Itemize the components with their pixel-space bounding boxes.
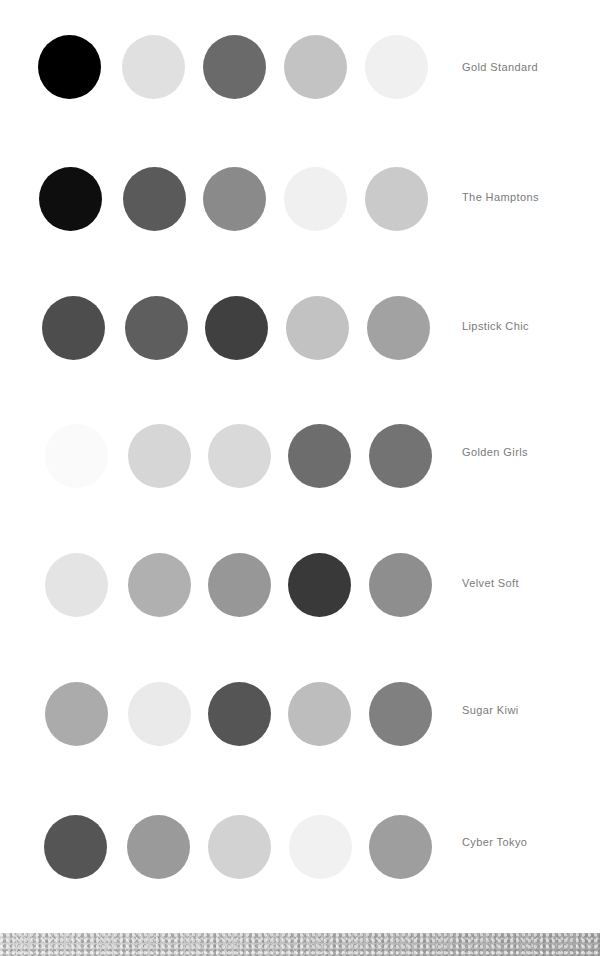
glitter-texture-band <box>0 933 600 956</box>
color-swatch-3 <box>203 35 266 99</box>
color-swatch-1 <box>45 424 108 488</box>
palette-name: Gold Standard <box>462 61 538 73</box>
color-swatch-5 <box>365 35 428 99</box>
color-swatch-1 <box>39 167 102 231</box>
color-swatch-2 <box>128 553 191 617</box>
color-swatch-4 <box>284 167 347 231</box>
color-swatch-5 <box>369 553 432 617</box>
color-swatch-2 <box>122 35 185 99</box>
color-swatch-4 <box>288 553 351 617</box>
color-swatch-5 <box>369 815 432 879</box>
color-swatch-3 <box>208 682 271 746</box>
palette-name: Sugar Kiwi <box>462 704 519 716</box>
color-swatch-1 <box>42 296 105 360</box>
color-swatch-5 <box>369 682 432 746</box>
palette-row-golden-girls: Golden Girls <box>0 424 600 494</box>
color-swatch-2 <box>128 682 191 746</box>
color-swatch-3 <box>208 424 271 488</box>
color-swatch-4 <box>288 424 351 488</box>
color-swatch-5 <box>369 424 432 488</box>
palette-row-cyber-tokyo: Cyber Tokyo <box>0 815 600 885</box>
color-swatch-5 <box>367 296 430 360</box>
color-swatch-5 <box>365 167 428 231</box>
palette-name: Velvet Soft <box>462 577 519 589</box>
palette-row-sugar-kiwi: Sugar Kiwi <box>0 682 600 752</box>
color-swatch-2 <box>127 815 190 879</box>
color-swatch-3 <box>208 815 271 879</box>
palette-name: Golden Girls <box>462 446 528 458</box>
color-swatch-2 <box>123 167 186 231</box>
palette-row-lipstick-chic: Lipstick Chic <box>0 296 600 366</box>
color-swatch-1 <box>45 553 108 617</box>
palette-row-gold-standard: Gold Standard <box>0 35 600 105</box>
color-swatch-3 <box>203 167 266 231</box>
palette-name: Cyber Tokyo <box>462 836 527 848</box>
palette-name: Lipstick Chic <box>462 320 529 332</box>
palette-name: The Hamptons <box>462 191 539 203</box>
palette-row-velvet-soft: Velvet Soft <box>0 553 600 623</box>
color-swatch-4 <box>289 815 352 879</box>
color-swatch-3 <box>205 296 268 360</box>
palette-row-the-hamptons: The Hamptons <box>0 167 600 237</box>
color-swatch-4 <box>288 682 351 746</box>
color-swatch-1 <box>44 815 107 879</box>
color-swatch-1 <box>38 35 101 99</box>
color-swatch-2 <box>128 424 191 488</box>
color-swatch-4 <box>286 296 349 360</box>
color-swatch-1 <box>45 682 108 746</box>
color-swatch-2 <box>125 296 188 360</box>
color-swatch-4 <box>284 35 347 99</box>
color-swatch-3 <box>208 553 271 617</box>
